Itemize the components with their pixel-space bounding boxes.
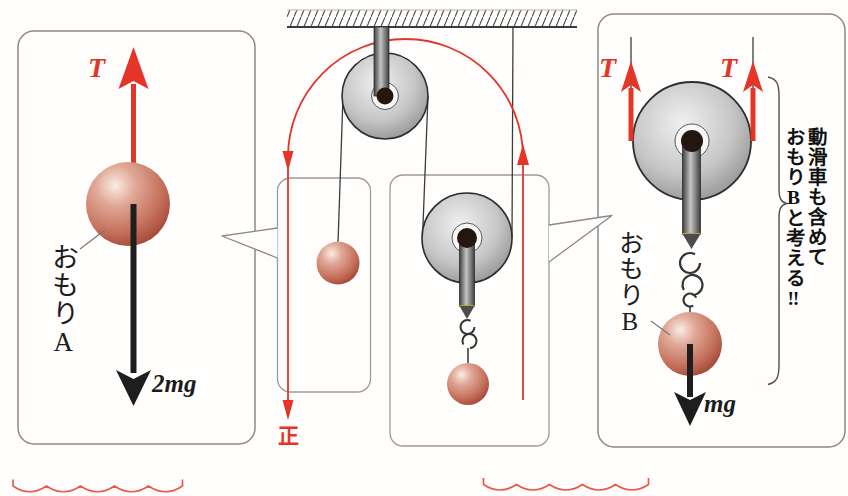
- label-pointer-a: [80, 230, 105, 249]
- gravity-label-a: 2mg: [152, 370, 196, 398]
- gravity-label-b: mg: [704, 390, 736, 418]
- right-panel-diagram: [621, 37, 787, 426]
- rope-ceiling-to-movable: [512, 27, 513, 238]
- callout-tail-left: [222, 228, 278, 258]
- left-panel-diagram: [80, 47, 170, 406]
- annotation-note-line1: 動滑車も含めて: [804, 127, 826, 327]
- hook-links: [460, 320, 479, 351]
- movable-pulley: [422, 193, 512, 405]
- fixed-pulley: [342, 27, 428, 139]
- gravity-arrow-a-head: [116, 370, 151, 406]
- down-arrowhead-mid: [283, 151, 294, 171]
- annotation-note: 動滑車も含めて おもりBと考える‼: [782, 127, 826, 327]
- wavy-line-right: [484, 478, 649, 490]
- annotation-note-line2: おもりBと考える‼: [782, 127, 804, 327]
- weight-a-small-ball: [317, 242, 360, 285]
- tension-label-b-left: T: [599, 52, 616, 84]
- tension-label-b-right: T: [720, 52, 737, 84]
- ceiling: [287, 10, 577, 27]
- gravity-arrow-b-head: [674, 392, 706, 426]
- weight-a-label: おもりA: [49, 243, 77, 358]
- tension-arrow-a-head: [119, 47, 149, 89]
- wavy-line-left: [13, 480, 183, 492]
- pulley-diagram-page: T おもりA 2mg 正 T T おもりB mg 動滑車も含めて おもりBと考え…: [0, 0, 848, 496]
- weight-a-ball: [86, 162, 170, 246]
- rope-fixed-left: [338, 96, 343, 243]
- weight-b-label: おもりB: [616, 230, 642, 336]
- positive-direction-label: 正: [278, 419, 299, 449]
- up-arrowhead: [517, 144, 529, 165]
- weight-b-small-ball: [447, 363, 489, 405]
- tension-label-a: T: [88, 52, 105, 84]
- mid-left-box: [278, 178, 371, 392]
- hook-links-b: [679, 253, 706, 309]
- down-arrowhead-end: [283, 400, 294, 420]
- wavy-underlines: [13, 478, 649, 492]
- callout-tail-right: [549, 216, 612, 263]
